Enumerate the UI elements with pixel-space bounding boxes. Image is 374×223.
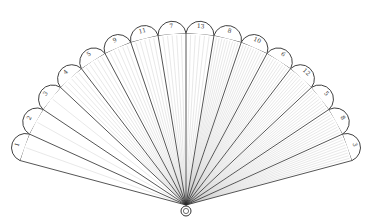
scallop-4 bbox=[58, 65, 82, 88]
scallop-16 bbox=[343, 134, 361, 161]
scallop-1 bbox=[12, 134, 30, 161]
fan-ribs bbox=[20, 33, 352, 205]
fan-shading bbox=[26, 35, 350, 205]
scallop-3 bbox=[39, 85, 61, 109]
scallop-13 bbox=[291, 65, 315, 88]
fan-diagram: 12345911713810612583 bbox=[0, 0, 374, 223]
scallop-14 bbox=[312, 85, 334, 109]
scallop-label: 13 bbox=[197, 22, 205, 30]
pivot-rivet-icon bbox=[181, 206, 191, 216]
scallop-label: 7 bbox=[169, 22, 174, 29]
scallop-2 bbox=[23, 108, 43, 134]
